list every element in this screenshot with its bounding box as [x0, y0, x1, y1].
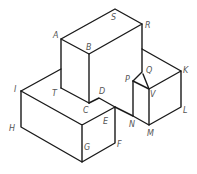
vertex-label-a: A — [52, 31, 58, 40]
vertex-label-v: V — [150, 90, 156, 99]
vertex-label-n: N — [129, 120, 135, 129]
diagram-edges — [21, 9, 181, 162]
vertex-label-d: D — [99, 87, 105, 96]
vertex-label-c: C — [83, 106, 89, 115]
edge-rb-qb-p — [133, 49, 142, 81]
edge-i-at — [21, 69, 61, 91]
edge-c-d-e — [89, 98, 115, 107]
diagram-svg: ABSRTCDEFGIHPQVKLMN — [0, 0, 197, 174]
vertex-label-m: M — [147, 129, 154, 138]
vertex-label-l: L — [183, 106, 187, 115]
edge-t-c — [61, 88, 89, 103]
vertex-label-t: T — [52, 89, 58, 98]
vertex-label-s: S — [111, 13, 116, 22]
edge-p-v-k-l-m-v — [133, 71, 181, 125]
vertex-label-e: E — [103, 117, 109, 126]
isometric-block-diagram: ABSRTCDEFGIHPQVKLMN — [0, 0, 197, 174]
vertex-label-r: R — [145, 21, 151, 30]
edge-i-gt-e-f-g-gt — [21, 91, 115, 162]
edge-r-rb-k — [142, 24, 181, 71]
edge-n-e — [115, 107, 133, 116]
vertex-label-b: B — [86, 43, 92, 52]
vertex-label-k: K — [183, 66, 189, 75]
edge-i-h-g — [21, 91, 82, 162]
vertex-label-h: H — [9, 124, 15, 133]
vertex-label-f: F — [117, 140, 122, 149]
edge-a-s-r-b-a — [61, 9, 142, 54]
vertex-label-i: I — [14, 85, 17, 94]
vertex-label-q: Q — [146, 66, 152, 75]
vertex-label-p: P — [125, 75, 130, 84]
vertex-label-g: G — [84, 143, 90, 152]
